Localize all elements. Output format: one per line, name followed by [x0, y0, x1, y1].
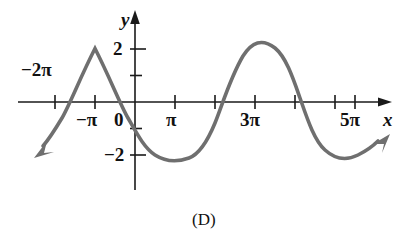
x-tick-label-5pi: 5π: [340, 110, 360, 129]
x-tick-label-neg-pi: −π: [76, 110, 97, 129]
y-axis-label: y: [121, 10, 129, 29]
y-tick-label-2: 2: [113, 39, 123, 58]
x-axis-label: x: [383, 110, 393, 129]
x-axis: [18, 98, 392, 107]
y-tick-label-neg-2: −2: [104, 145, 124, 164]
figure-caption: (D): [192, 211, 216, 228]
x-tick-label-neg-2pi: −2π: [21, 60, 52, 79]
y-axis: [130, 10, 140, 190]
curve-right-arrowhead: [373, 134, 390, 153]
x-tick-label-zero: 0: [114, 110, 124, 129]
x-tick-label-pi: π: [166, 110, 176, 129]
x-tick-label-3pi: 3π: [240, 110, 260, 129]
y-axis-arrowhead: [130, 10, 140, 24]
x-axis-arrowhead: [378, 98, 392, 107]
